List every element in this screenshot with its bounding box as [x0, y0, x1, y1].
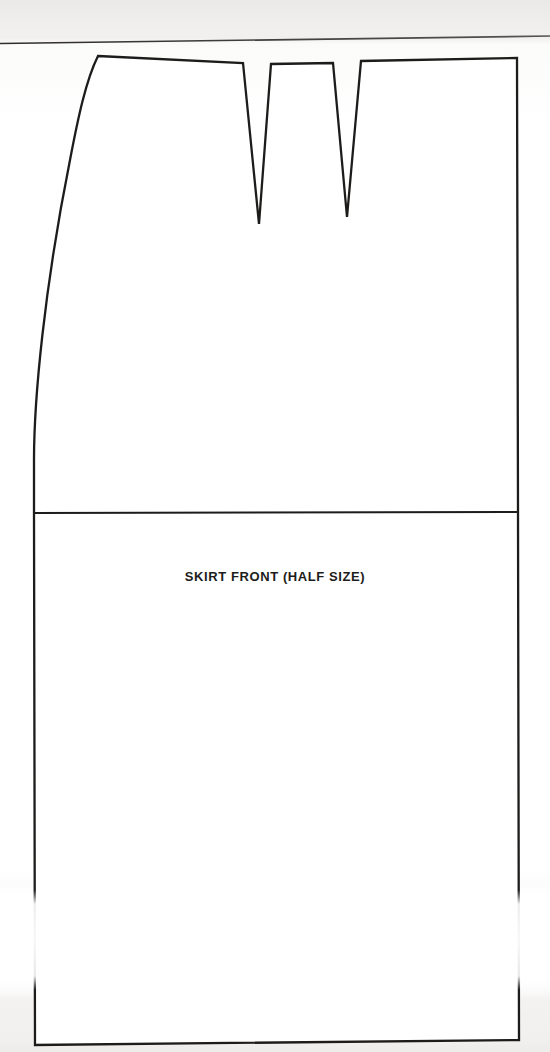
hipline-guide — [34, 512, 519, 513]
pattern-page: SKIRT FRONT (HALF SIZE) — [0, 0, 550, 1052]
skirt-front-pattern-drawing — [0, 0, 550, 1052]
pattern-outline-path — [34, 56, 519, 1045]
pattern-piece-label: SKIRT FRONT (HALF SIZE) — [0, 569, 550, 584]
page-edge-line — [0, 36, 550, 44]
